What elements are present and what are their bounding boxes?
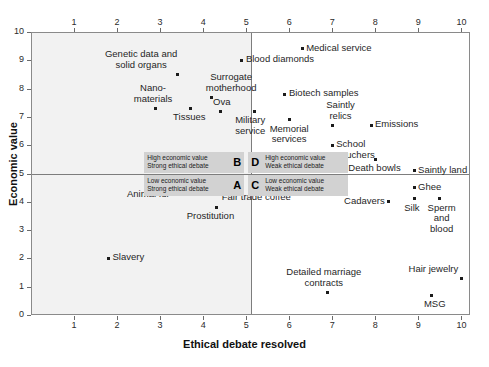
data-point (240, 59, 243, 62)
data-point-label: Ghee (418, 182, 441, 193)
x-tick-label-5: 5 (236, 320, 256, 330)
data-point-label: Genetic data and solid organs (105, 49, 177, 70)
y-axis-title: Economic value (7, 89, 19, 239)
data-point-label: Death bowls (348, 163, 400, 174)
data-point-label: Detailed marriage contracts (286, 267, 361, 288)
x-tick-mark-top-1 (74, 28, 75, 32)
scatter-chart: 1234567891012345678910012345678910 Medic… (0, 0, 489, 367)
x-tick-mark-top-9 (418, 28, 419, 32)
data-point-label: Ova (213, 97, 230, 108)
data-point (331, 144, 334, 147)
x-tick-mark-top-3 (160, 28, 161, 32)
x-tick-label-8: 8 (365, 320, 385, 330)
data-point (413, 197, 416, 200)
quadrant-legend-letter: D (248, 156, 262, 168)
data-point-label: Saintly land (418, 165, 467, 176)
data-point (288, 118, 291, 121)
x-tick-mark-top-2 (117, 28, 118, 32)
data-point-label: Surrogate motherhood (206, 72, 257, 93)
data-point (154, 107, 157, 110)
data-point-label: Memorial services (270, 124, 309, 145)
y-tick-label-0: 0 (8, 309, 24, 319)
quadrant-legend-text: Low economic value Strong ethical debate (144, 177, 230, 193)
x-tick-mark-3 (160, 316, 161, 320)
y-tick-mark-0 (27, 315, 31, 316)
quadrant-legend-text: High economic value Strong ethical debat… (144, 154, 230, 170)
data-point-label: Hair jewelry (409, 264, 459, 275)
data-point (219, 110, 222, 113)
x-axis-title: Ethical debate resolved (0, 338, 489, 350)
x-tick-label-top-4: 4 (193, 17, 213, 27)
x-tick-label-7: 7 (322, 320, 342, 330)
x-tick-mark-4 (203, 316, 204, 320)
data-point-label: Nano- materials (134, 83, 173, 104)
x-tick-mark-1 (74, 316, 75, 320)
y-tick-label-9: 9 (8, 54, 24, 64)
x-tick-mark-9 (418, 316, 419, 320)
x-tick-label-top-7: 7 (322, 17, 342, 27)
x-tick-mark-6 (289, 316, 290, 320)
data-point (189, 107, 192, 110)
data-point-label: Prostitution (187, 211, 235, 222)
x-tick-mark-top-4 (203, 28, 204, 32)
x-tick-mark-top-6 (289, 28, 290, 32)
data-point-label: Tissues (173, 112, 205, 123)
data-point (331, 124, 334, 127)
quadrant-legend-d: DHigh economic value Weak ethical debate (248, 152, 348, 173)
data-point (438, 197, 441, 200)
y-tick-mark-2 (27, 258, 31, 259)
quadrant-legend-c: CLow economic value Weak ethical debate (248, 175, 348, 196)
y-tick-mark-3 (27, 230, 31, 231)
x-tick-label-1: 1 (64, 320, 84, 330)
x-tick-label-10: 10 (451, 320, 471, 330)
data-point-label: Saintly relics (326, 100, 355, 121)
data-point (176, 73, 179, 76)
data-point-label: Slavery (112, 252, 144, 263)
data-point (301, 47, 304, 50)
y-tick-mark-7 (27, 117, 31, 118)
data-point-label: Silk (404, 203, 419, 214)
y-tick-mark-9 (27, 60, 31, 61)
x-tick-label-top-10: 10 (451, 17, 471, 27)
x-tick-mark-top-5 (246, 28, 247, 32)
y-tick-mark-6 (27, 145, 31, 146)
x-tick-label-top-6: 6 (279, 17, 299, 27)
x-tick-label-6: 6 (279, 320, 299, 330)
quadrant-legend-letter: C (248, 179, 262, 191)
data-point (370, 124, 373, 127)
data-point (107, 257, 110, 260)
data-point (430, 294, 433, 297)
quadrant-legend-text: High economic value Weak ethical debate (262, 154, 328, 170)
data-point-label: MSG (424, 299, 446, 310)
y-tick-label-1: 1 (8, 281, 24, 291)
quadrant-legend-a: Low economic value Strong ethical debate… (144, 175, 244, 196)
data-point-label: Military service (235, 115, 265, 136)
x-tick-label-4: 4 (193, 320, 213, 330)
data-point (215, 206, 218, 209)
x-tick-label-top-1: 1 (64, 17, 84, 27)
x-tick-label-top-2: 2 (107, 17, 127, 27)
data-point (413, 169, 416, 172)
data-point-label: Cadavers (344, 196, 385, 207)
x-tick-mark-top-8 (375, 28, 376, 32)
y-tick-label-10: 10 (8, 26, 24, 36)
data-point (253, 110, 256, 113)
data-point (374, 158, 377, 161)
data-point-label: Biotech samples (289, 88, 359, 99)
y-tick-mark-8 (27, 89, 31, 90)
x-tick-mark-8 (375, 316, 376, 320)
quadrant-legend-b: High economic value Strong ethical debat… (144, 152, 244, 173)
data-point (460, 277, 463, 280)
data-point-label: Emissions (375, 119, 418, 130)
x-tick-label-2: 2 (107, 320, 127, 330)
quadrant-legend-letter: B (230, 156, 244, 168)
y-tick-mark-1 (27, 287, 31, 288)
x-tick-mark-top-7 (332, 28, 333, 32)
quadrant-legend-letter: A (230, 179, 244, 191)
x-tick-label-top-3: 3 (150, 17, 170, 27)
data-point-label: Sperm and blood (428, 203, 456, 235)
quadrant-legend-text: Low economic value Weak ethical debate (262, 177, 327, 193)
data-point (326, 291, 329, 294)
x-tick-label-top-5: 5 (236, 17, 256, 27)
data-point (387, 200, 390, 203)
